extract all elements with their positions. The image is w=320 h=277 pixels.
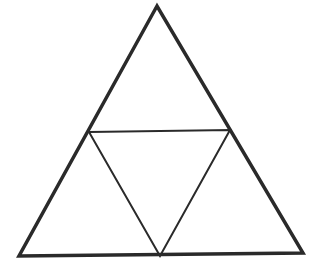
- subdivided-triangle-diagram: [0, 0, 320, 277]
- inner-midpoint-triangle: [89, 130, 230, 256]
